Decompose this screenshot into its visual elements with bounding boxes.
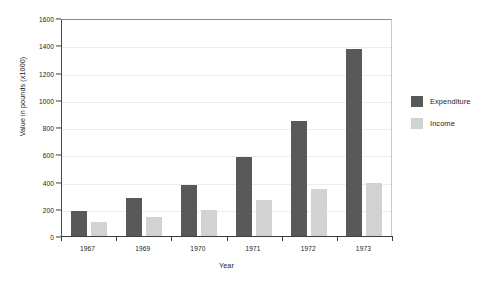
y-tick-label: 600	[8, 152, 54, 159]
gridline	[62, 211, 391, 212]
x-tick-mark	[392, 236, 393, 241]
y-tick-label: 1000	[8, 97, 54, 104]
bar-income-1972	[311, 189, 327, 237]
legend-swatch-expenditure	[411, 96, 423, 107]
bar-expenditure-1970	[181, 185, 197, 237]
gridline	[62, 184, 391, 185]
x-tick-label: 1969	[135, 245, 150, 252]
y-tick-mark	[56, 100, 61, 101]
y-tick-label: 800	[8, 125, 54, 132]
bar-income-1967	[91, 222, 107, 237]
y-tick-mark	[56, 182, 61, 183]
x-tick-label: 1967	[80, 245, 95, 252]
y-tick-label: 200	[8, 206, 54, 213]
gridline	[62, 102, 391, 103]
bar-expenditure-1969	[126, 198, 142, 238]
legend-label: Income	[430, 119, 455, 128]
y-tick-mark	[56, 46, 61, 47]
gridline	[62, 75, 391, 76]
legend: ExpenditureIncome	[411, 90, 471, 134]
gridline	[62, 47, 391, 48]
gridline	[62, 156, 391, 157]
legend-item-income[interactable]: Income	[411, 112, 471, 134]
y-tick-mark	[56, 155, 61, 156]
y-tick-mark	[56, 18, 61, 19]
bar-expenditure-1967	[71, 211, 87, 237]
x-tick-mark	[227, 236, 228, 241]
x-tick-mark	[282, 236, 283, 241]
bar-income-1969	[146, 217, 162, 237]
bar-income-1970	[201, 210, 217, 237]
bar-income-1973	[366, 183, 382, 238]
y-tick-mark	[56, 73, 61, 74]
y-tick-mark	[56, 209, 61, 210]
bar-expenditure-1971	[236, 157, 252, 237]
bar-income-1971	[256, 200, 272, 237]
legend-label: Expenditure	[430, 97, 471, 106]
x-axis-title: Year	[61, 261, 392, 270]
y-tick-label: 1400	[8, 43, 54, 50]
y-tick-label: 1600	[8, 16, 54, 23]
y-tick-label: 0	[8, 234, 54, 241]
gridline	[62, 129, 391, 130]
bar-chart: Value in pounds (x1000) 0200400600800100…	[0, 0, 497, 292]
x-tick-mark	[61, 236, 62, 241]
legend-swatch-income	[411, 118, 423, 129]
x-tick-mark	[116, 236, 117, 241]
legend-item-expenditure[interactable]: Expenditure	[411, 90, 471, 112]
y-tick-label: 400	[8, 179, 54, 186]
x-tick-label: 1971	[246, 245, 261, 252]
x-tick-label: 1970	[190, 245, 205, 252]
x-tick-mark	[171, 236, 172, 241]
y-tick-label: 1200	[8, 70, 54, 77]
x-tick-label: 1973	[356, 245, 371, 252]
plot-area	[61, 19, 392, 237]
bar-expenditure-1973	[346, 49, 362, 237]
bar-expenditure-1972	[291, 121, 307, 237]
y-tick-mark	[56, 127, 61, 128]
x-tick-mark	[337, 236, 338, 241]
x-tick-label: 1972	[301, 245, 316, 252]
